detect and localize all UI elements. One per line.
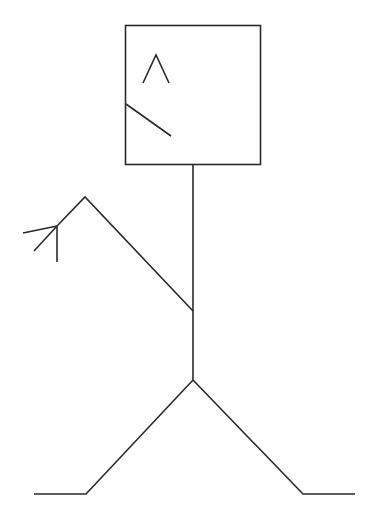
left-leg xyxy=(34,380,193,494)
raised-arm xyxy=(57,197,193,311)
mouth-line xyxy=(126,104,171,136)
eye-caret xyxy=(143,55,169,83)
head-box xyxy=(126,26,261,165)
right-leg xyxy=(193,380,355,494)
stick-figure-drawing xyxy=(0,0,378,524)
